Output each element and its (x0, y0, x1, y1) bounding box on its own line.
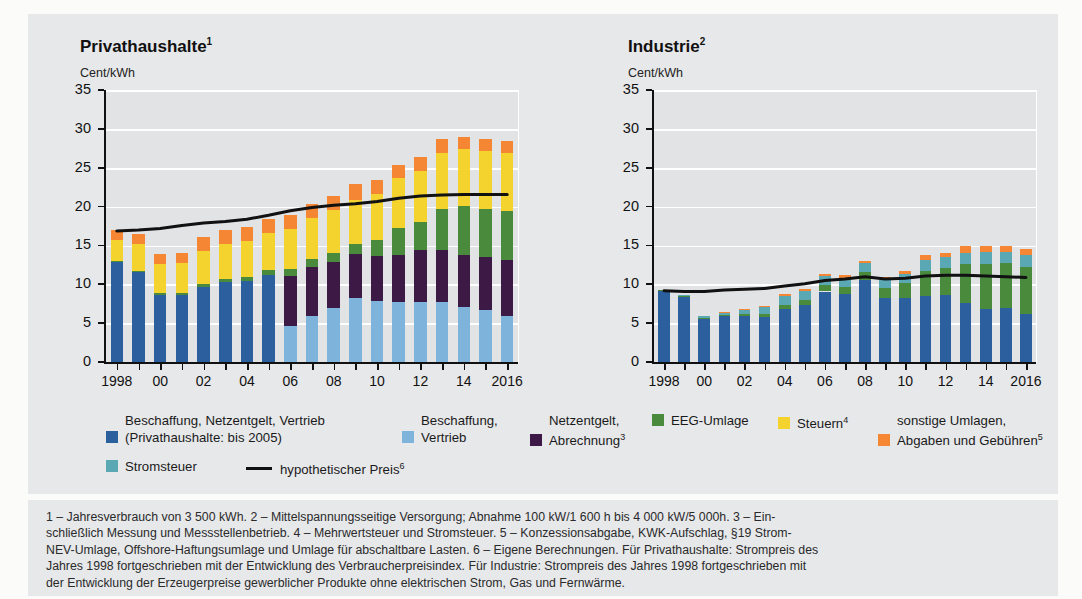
legend-item-beschaffung-netzentgelt-vertrieb[interactable]: Beschaffung, Netzentgelt, Vertrieb(Priva… (106, 412, 325, 446)
bar-2014[interactable] (980, 91, 992, 363)
bar-2016[interactable] (1020, 91, 1032, 363)
bar-2013[interactable] (960, 91, 972, 363)
bar-2006[interactable] (284, 91, 297, 363)
legend-sublabel-5: Abgaben und Gebühren (897, 433, 1038, 448)
bar-2011[interactable] (392, 91, 405, 363)
bar-2004[interactable] (241, 91, 254, 363)
bar-segment (458, 307, 471, 363)
legend-sublabel-0: (Privathaushalte: bis 2005) (125, 429, 325, 446)
legend-item-sonstige-umlagen[interactable]: sonstige Umlagen,Abgaben und Gebühren5 (878, 412, 1043, 449)
x-tick-mark (312, 364, 314, 370)
bar-2009[interactable] (349, 91, 362, 363)
bar-2006[interactable] (819, 91, 831, 363)
bar-segment (219, 244, 232, 279)
bar-2005[interactable] (262, 91, 275, 363)
bar-segment (940, 295, 952, 363)
bar-2003[interactable] (219, 91, 232, 363)
bar-2008[interactable] (859, 91, 871, 363)
bar-2007[interactable] (306, 91, 319, 363)
bar-2001[interactable] (176, 91, 189, 363)
bar-segment (899, 298, 911, 363)
legend-swatch-netzentgelt-abrechnung (530, 434, 542, 446)
bar-2001[interactable] (719, 91, 731, 363)
bar-segment (759, 317, 771, 363)
x-tick-mark (117, 364, 119, 370)
bar-2010[interactable] (371, 91, 384, 363)
bar-2008[interactable] (327, 91, 340, 363)
bar-2013[interactable] (436, 91, 449, 363)
x-tick-mark (225, 364, 227, 370)
y-tick-label: 30 (61, 120, 91, 136)
legend-item-stromsteuer[interactable]: Stromsteuer (106, 458, 197, 475)
bar-segment (960, 246, 972, 252)
bar-1998[interactable] (658, 91, 670, 363)
bar-segment (306, 267, 319, 316)
x-tick-mark (334, 364, 336, 370)
bar-segment (940, 253, 952, 257)
legend-label-line: hypothetischer Preis (280, 462, 399, 477)
bar-2000[interactable] (154, 91, 167, 363)
bar-1999[interactable] (132, 91, 145, 363)
bar-segment (739, 309, 751, 314)
bar-segment (284, 269, 297, 276)
bar-2011[interactable] (920, 91, 932, 363)
bar-segment (839, 278, 851, 287)
bar-segment (839, 275, 851, 277)
bar-2010[interactable] (899, 91, 911, 363)
legend-item-hypothetischer-preis[interactable]: hypothetischer Preis6 (246, 458, 405, 478)
bar-segment (132, 234, 145, 244)
bar-1998[interactable] (111, 91, 124, 363)
bar-segment (219, 279, 232, 282)
bar-segment (879, 298, 891, 363)
bar-2012[interactable] (940, 91, 952, 363)
bar-segment (859, 261, 871, 263)
bar-segment (436, 250, 449, 303)
bar-2000[interactable] (698, 91, 710, 363)
bar-segment (392, 255, 405, 302)
legend-item-beschaffung-vertrieb[interactable]: Beschaffung,Vertrieb (402, 412, 498, 446)
y-tick-label: 20 (61, 198, 91, 214)
bar-2012[interactable] (414, 91, 427, 363)
bar-2002[interactable] (197, 91, 210, 363)
bar-2002[interactable] (739, 91, 751, 363)
bar-segment (779, 296, 791, 305)
bar-2007[interactable] (839, 91, 851, 363)
bar-segment (839, 294, 851, 363)
bar-segment (1000, 308, 1012, 363)
y-tick-mark (98, 206, 104, 208)
bar-segment (739, 314, 751, 316)
legend-label-6: Stromsteuer (125, 458, 197, 475)
bar-segment (349, 200, 362, 244)
bar-1999[interactable] (678, 91, 690, 363)
bar-segment (479, 139, 492, 151)
x-tick-mark (182, 364, 184, 370)
bar-2015[interactable] (1000, 91, 1012, 363)
bar-2015[interactable] (479, 91, 492, 363)
legend-item-steuern[interactable]: Steuern4 (778, 412, 848, 432)
bar-segment (1020, 255, 1032, 267)
bar-segment (759, 314, 771, 317)
y-tick-label: 20 (609, 198, 639, 214)
bar-2005[interactable] (799, 91, 811, 363)
bar-segment (899, 271, 911, 274)
y-tick-mark (646, 167, 652, 169)
bar-segment (479, 209, 492, 257)
bar-2009[interactable] (879, 91, 891, 363)
x-tick-label: 2016 (482, 373, 532, 389)
bar-2004[interactable] (779, 91, 791, 363)
legend-item-netzentgelt-abrechnung[interactable]: Netzentgelt,Abrechnung3 (530, 412, 625, 449)
x-tick-label: 2016 (1001, 373, 1051, 389)
legend-swatch-beschaffung-netzentgelt-vertrieb (106, 431, 118, 443)
bar-2003[interactable] (759, 91, 771, 363)
bar-segment (306, 316, 319, 363)
x-tick-mark (825, 364, 827, 370)
x-tick-mark (885, 364, 887, 370)
bar-2016[interactable] (501, 91, 514, 363)
legend-item-eeg-umlage[interactable]: EEG-Umlage (652, 412, 749, 429)
bar-2014[interactable] (458, 91, 471, 363)
bar-segment (940, 268, 952, 294)
y-tick-mark (646, 361, 652, 363)
legend-label-0: Beschaffung, Netzentgelt, Vertrieb (125, 413, 325, 428)
y-tick-label: 25 (609, 159, 639, 175)
x-tick-mark (1026, 364, 1028, 370)
